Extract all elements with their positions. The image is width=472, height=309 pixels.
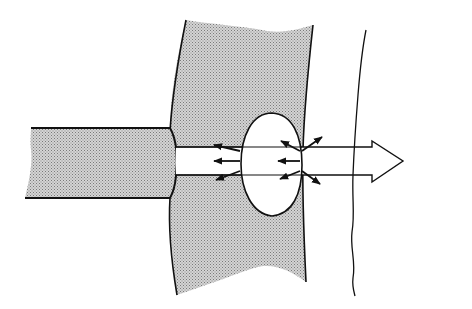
fiber-tip bbox=[25, 128, 177, 198]
diagram-svg bbox=[0, 0, 472, 309]
diagram-canvas bbox=[0, 0, 472, 309]
